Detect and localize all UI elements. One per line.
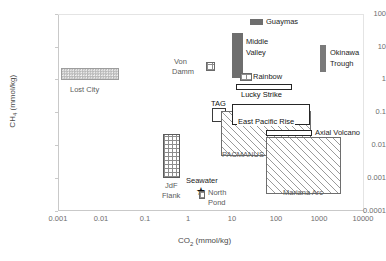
y-axis-title: CH4 (mmol/kg) <box>8 56 19 146</box>
region-label-okinawa-trough-line1: Okinawa <box>330 48 359 57</box>
region-axial-volcano <box>266 130 312 136</box>
y-axis-title-unit: (mmol/kg) <box>8 75 17 113</box>
x-axis-title-unit: (mmol/kg) <box>193 236 231 245</box>
y-axis-title-sub: 4 <box>12 113 18 116</box>
region-label-north-pond-line2: Pond <box>208 198 226 207</box>
region-label-middle-valley-line1: Middle <box>246 37 268 46</box>
region-label-north-pond-line1: North <box>208 188 226 197</box>
region-label-tag: TAG <box>210 99 227 108</box>
region-label-von-damm-line2: Damm <box>172 67 194 76</box>
x-tick-label-1: 1 <box>186 215 190 223</box>
chart-figure: 100 10 1 0.1 0.01 0.001 0.0001 0.001 0.0… <box>0 0 386 261</box>
y-tick-mark-0.01 <box>55 145 58 146</box>
region-label-middle-valley-line2: Valley <box>246 48 266 57</box>
region-mariana-arc <box>266 137 341 194</box>
region-label-mariana-arc: Mariana Arc <box>283 188 323 197</box>
region-okinawa-trough <box>320 45 326 72</box>
region-von-damm <box>206 62 215 71</box>
y-tick-label-100: 100 <box>334 10 386 18</box>
region-label-jdf-flank-line1: JdF <box>165 181 178 190</box>
region-rainbow <box>240 73 252 81</box>
region-north-pond <box>199 191 205 199</box>
x-axis-title: CO2 (mmol/kg) <box>178 236 231 247</box>
y-tick-mark-10 <box>55 47 58 48</box>
x-tick-label-0.01: 0.01 <box>94 215 109 223</box>
region-label-von-damm-line1: Von <box>174 57 187 66</box>
y-tick-mark-100 <box>55 14 58 15</box>
region-label-axial-volcano: Axial Volcano <box>315 128 360 137</box>
x-tick-label-100: 100 <box>270 215 283 223</box>
y-tick-label-1: 1 <box>334 75 386 83</box>
y-tick-mark-0.0001 <box>55 211 58 212</box>
x-axis-title-base: CO <box>178 236 190 245</box>
region-jdf-flank <box>163 134 180 178</box>
region-label-lost-city: Lost City <box>70 85 99 94</box>
region-label-jdf-flank-line2: Flank <box>162 191 180 200</box>
region-label-east-pacific-rise: East Pacific Rise <box>237 117 295 126</box>
x-tick-label-10000: 10000 <box>353 215 374 223</box>
region-lost-city <box>61 68 119 80</box>
region-middle-valley <box>232 33 243 78</box>
y-tick-label-0.001: 0.001 <box>334 174 386 182</box>
y-tick-mark-0.1 <box>55 112 58 113</box>
x-tick-label-0.001: 0.001 <box>49 215 68 223</box>
region-label-pacmanus: PACMANUS <box>222 150 264 159</box>
region-label-seawater: Seawater <box>186 176 218 185</box>
x-tick-label-0.1: 0.1 <box>140 215 150 223</box>
plot-frame-top <box>58 14 364 15</box>
region-label-lucky-strike: Lucky Strike <box>240 90 283 99</box>
y-tick-mark-0.001 <box>55 178 58 179</box>
y-tick-mark-1 <box>55 79 58 80</box>
region-guaymas <box>250 19 263 25</box>
region-label-rainbow: Rainbow <box>253 72 282 81</box>
x-tick-label-10: 10 <box>228 215 236 223</box>
region-label-okinawa-trough-line2: Trough <box>330 59 354 68</box>
y-tick-label-0.1: 0.1 <box>334 108 386 116</box>
x-tick-label-1000: 1000 <box>311 215 328 223</box>
y-tick-label-0.01: 0.01 <box>334 141 386 149</box>
y-axis-title-base: CH <box>8 116 17 128</box>
region-label-guaymas: Guaymas <box>266 17 298 26</box>
